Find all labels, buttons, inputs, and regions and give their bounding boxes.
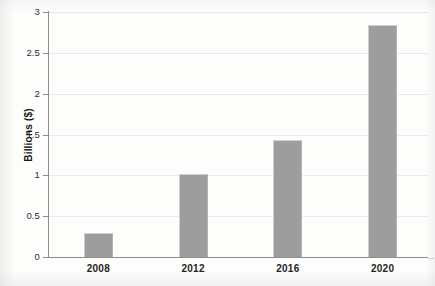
y-axis-tick-label: 0.5: [0, 211, 40, 221]
y-axis-tick-label: 2.5: [0, 48, 40, 58]
chart-figure: Billions ($) 32.521.510.50 2008201220162…: [0, 0, 435, 286]
bar-2016: [273, 140, 302, 257]
y-axis-tick: [43, 12, 48, 13]
gridline: [49, 12, 428, 13]
x-axis-line-extension: [428, 258, 434, 259]
x-axis-tick-label: 2008: [87, 263, 110, 274]
x-axis-tick-label: 2012: [182, 263, 205, 274]
y-axis-tick: [43, 175, 48, 176]
y-axis-tick-label: 1.5: [0, 130, 40, 140]
x-axis-line: [48, 257, 428, 258]
y-axis-line: [48, 11, 49, 258]
bar-2020: [368, 25, 397, 257]
bar-2012: [179, 174, 208, 257]
y-axis-tick-label: 0: [0, 252, 40, 262]
y-axis-tick-label: 1: [0, 170, 40, 180]
x-axis-tick-label: 2020: [371, 263, 394, 274]
y-axis-tick: [43, 135, 48, 136]
bar-2008: [84, 233, 113, 258]
x-axis-tick-label: 2016: [276, 263, 299, 274]
y-axis-tick: [43, 94, 48, 95]
y-axis-tick-label: 2: [0, 89, 40, 99]
y-axis-tick: [43, 216, 48, 217]
y-axis-tick: [43, 53, 48, 54]
y-axis-tick: [43, 257, 48, 258]
y-axis-tick-label: 3: [0, 7, 40, 17]
